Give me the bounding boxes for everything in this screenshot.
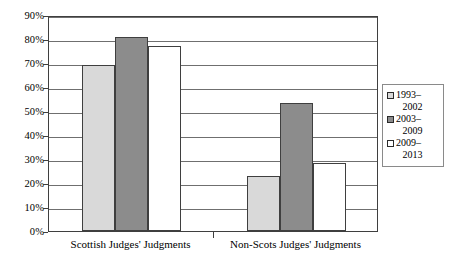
bar: [247, 176, 280, 231]
legend-label-line2: 2013: [387, 149, 440, 161]
legend-entry[interactable]: 2003–2009: [387, 113, 440, 137]
legend-label-line1: 2009–: [396, 137, 421, 149]
y-axis-tick: 90%: [24, 9, 48, 23]
y-axis-tick: 20%: [24, 177, 48, 191]
bars-layer: [49, 17, 377, 231]
y-axis: 0%10%20%30%40%50%60%70%80%90%: [0, 16, 48, 232]
legend-label-line1: 1993–: [396, 89, 421, 101]
legend-swatch-icon: [387, 92, 394, 99]
y-axis-tick: 30%: [24, 153, 48, 167]
y-axis-tick: 60%: [24, 81, 48, 95]
bar: [82, 65, 115, 231]
legend-swatch-icon: [387, 116, 394, 123]
plot-area: [48, 16, 378, 232]
y-axis-tick: 50%: [24, 105, 48, 119]
y-axis-tick: 70%: [24, 57, 48, 71]
x-axis-category-label: Non-Scots Judges' Judgments: [213, 238, 378, 251]
y-axis-tick: 40%: [24, 129, 48, 143]
legend-label-line2: 2002: [387, 101, 440, 113]
legend-swatch-icon: [387, 140, 394, 147]
legend-entry[interactable]: 1993–2002: [387, 89, 440, 113]
x-axis-category-label: Scottish Judges' Judgments: [48, 238, 213, 251]
y-axis-tick-mark: [43, 232, 48, 233]
bar: [280, 103, 313, 231]
legend-entry[interactable]: 2009–2013: [387, 137, 440, 161]
legend-label-line1: 2003–: [396, 113, 421, 125]
bar: [115, 37, 148, 231]
bar: [148, 46, 181, 231]
y-axis-tick: 0%: [30, 225, 48, 239]
y-axis-tick: 10%: [24, 201, 48, 215]
bar: [313, 163, 346, 231]
y-axis-tick: 80%: [24, 33, 48, 47]
bar-chart-figure: 0%10%20%30%40%50%60%70%80%90% Scottish J…: [0, 0, 455, 266]
legend-label-line2: 2009: [387, 125, 440, 137]
chart-legend: 1993–20022003–20092009–2013: [382, 84, 444, 167]
